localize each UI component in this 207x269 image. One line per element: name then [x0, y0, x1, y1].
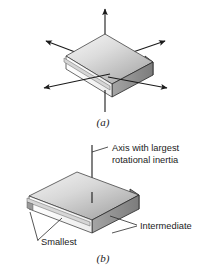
panel-a-caption: (a) [97, 116, 110, 129]
panel-b-caption: (b) [97, 252, 110, 265]
largest-axis-label-line2: rotational inertia [112, 155, 179, 165]
physics-figure: (a) Axis with largest rotational inertia [0, 0, 207, 269]
figure-container: (a) Axis with largest rotational inertia [0, 0, 207, 269]
intermediate-label-text: Intermediate [140, 221, 192, 231]
smallest-label-text: Smallest [41, 237, 77, 247]
largest-axis-label-line1: Axis with largest [112, 143, 180, 153]
